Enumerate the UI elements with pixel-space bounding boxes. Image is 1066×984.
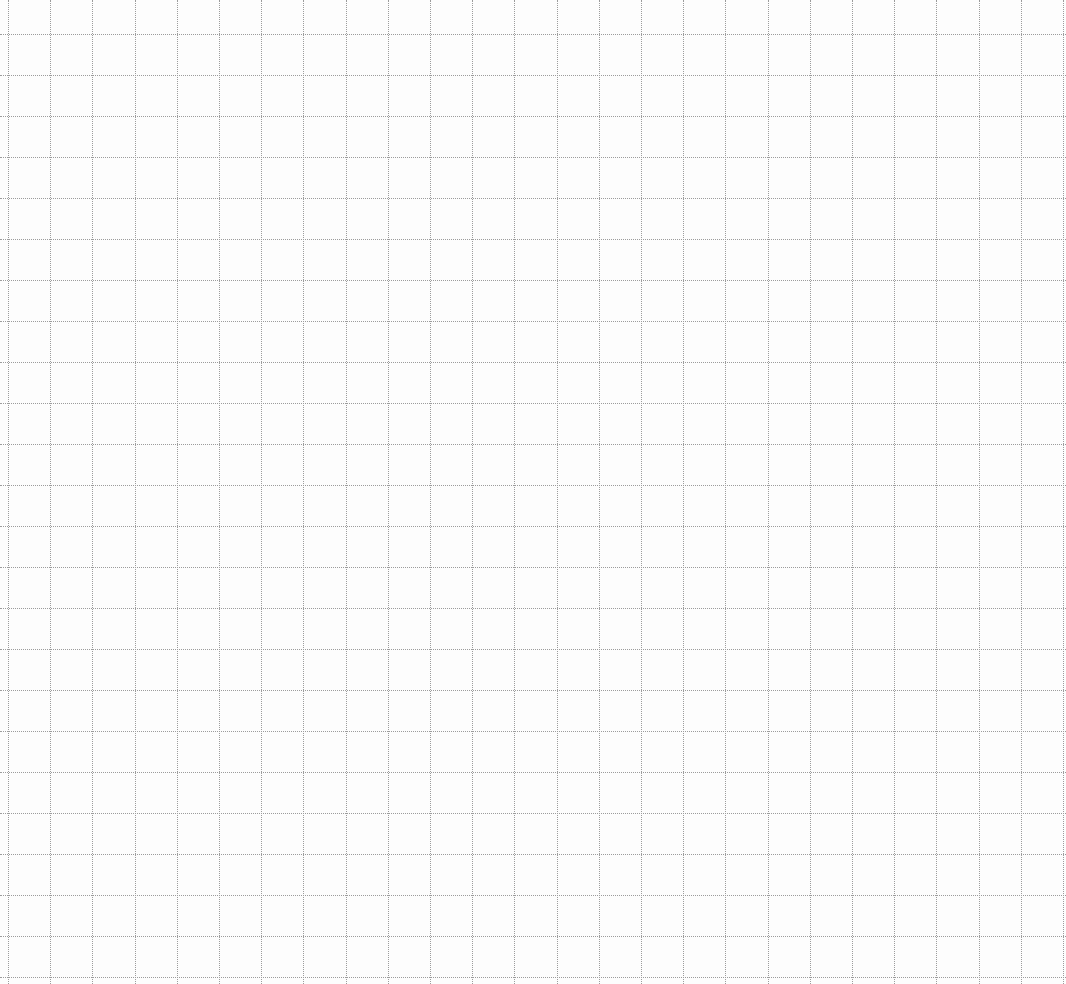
- grid-horizontal-line: [0, 75, 1066, 76]
- grid-vertical-line: [1063, 0, 1064, 984]
- grid-horizontal-line: [0, 116, 1066, 117]
- grid-horizontal-line: [0, 280, 1066, 281]
- grid-horizontal-line: [0, 690, 1066, 691]
- grid-vertical-line: [50, 0, 51, 984]
- grid-vertical-line: [388, 0, 389, 984]
- grid-horizontal-line: [0, 977, 1066, 978]
- grid-vertical-line: [514, 0, 515, 984]
- grid-horizontal-line: [0, 772, 1066, 773]
- grid-vertical-line: [725, 0, 726, 984]
- grid-vertical-line: [135, 0, 136, 984]
- grid-vertical-line: [557, 0, 558, 984]
- grid-vertical-line: [92, 0, 93, 984]
- grid-horizontal-line: [0, 403, 1066, 404]
- grid-horizontal-line: [0, 485, 1066, 486]
- grid-horizontal-line: [0, 34, 1066, 35]
- grid-horizontal-line: [0, 813, 1066, 814]
- grid-vertical-line: [177, 0, 178, 984]
- grid-vertical-line: [894, 0, 895, 984]
- grid-vertical-line: [979, 0, 980, 984]
- grid-vertical-line: [219, 0, 220, 984]
- grid-horizontal-line: [0, 198, 1066, 199]
- grid-horizontal-line: [0, 567, 1066, 568]
- grid-vertical-line: [472, 0, 473, 984]
- grid-vertical-line: [1021, 0, 1022, 984]
- grid-horizontal-line: [0, 649, 1066, 650]
- grid-horizontal-line: [0, 362, 1066, 363]
- grid-vertical-line: [810, 0, 811, 984]
- grid-horizontal-line: [0, 157, 1066, 158]
- grid-horizontal-line: [0, 526, 1066, 527]
- grid-horizontal-line: [0, 321, 1066, 322]
- grid-horizontal-line: [0, 731, 1066, 732]
- grid-vertical-line: [641, 0, 642, 984]
- grid-vertical-line: [768, 0, 769, 984]
- grid-vertical-line: [346, 0, 347, 984]
- grid-vertical-line: [261, 0, 262, 984]
- grid-horizontal-line: [0, 936, 1066, 937]
- graph-paper-sheet: [0, 0, 1066, 984]
- grid-vertical-line: [430, 0, 431, 984]
- grid-horizontal-line: [0, 608, 1066, 609]
- grid-vertical-line: [303, 0, 304, 984]
- grid-horizontal-line: [0, 239, 1066, 240]
- grid-vertical-line: [936, 0, 937, 984]
- grid-vertical-line: [8, 0, 9, 984]
- grid-vertical-line: [683, 0, 684, 984]
- grid-horizontal-line: [0, 854, 1066, 855]
- grid-horizontal-line: [0, 444, 1066, 445]
- grid-horizontal-line: [0, 895, 1066, 896]
- grid-vertical-line: [599, 0, 600, 984]
- grid-vertical-line: [852, 0, 853, 984]
